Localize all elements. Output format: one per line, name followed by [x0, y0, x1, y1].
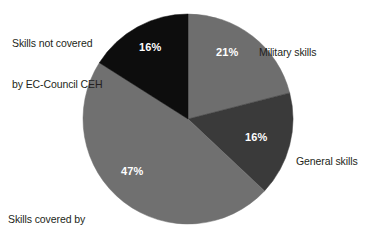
slice-value-general-skills: 16% [245, 131, 267, 143]
slice-value-military-skills: 21% [216, 46, 238, 58]
slice-label-line-1: Skills not covered [12, 37, 103, 51]
slice-value-skills-not-covered: 16% [139, 41, 161, 53]
slice-label-line-1: Skills covered by [8, 213, 85, 227]
slice-label-general-skills: General skills [296, 128, 358, 196]
slice-label-line-1: General skills [296, 155, 358, 169]
slice-value-skills-covered: 47% [121, 165, 143, 177]
slice-label-line-2: by EC-Council CEH [12, 78, 103, 92]
slice-label-line-1: Military skills [259, 46, 316, 60]
pie-chart-figure: Skills not covered by EC-Council CEH Ski… [0, 0, 389, 238]
slice-label-skills-covered: Skills covered by EC-Council CEH [8, 186, 85, 238]
slice-label-skills-not-covered: Skills not covered by EC-Council CEH [12, 10, 103, 118]
slice-label-military-skills: Military skills [259, 19, 316, 87]
